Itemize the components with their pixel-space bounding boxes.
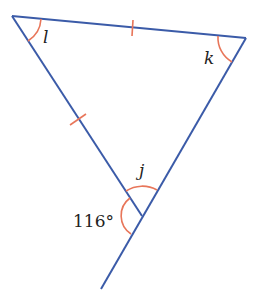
angle-label-l: l (43, 27, 48, 47)
angle-arc-j (126, 186, 157, 191)
angle-arc-l (28, 19, 41, 41)
angle-label-k: k (204, 48, 214, 68)
angle-label-j: j (139, 160, 144, 180)
side-left (12, 16, 142, 216)
tick-mark-top (132, 20, 133, 36)
side-right-extended (101, 38, 246, 289)
tick-mark-left (70, 114, 86, 125)
triangle-figure (0, 0, 258, 303)
angle-arc-116 (121, 198, 131, 234)
angle-arc-k (218, 36, 232, 62)
angle-label-116: 116° (73, 211, 114, 231)
diagram-canvas: l k j 116° (0, 0, 258, 303)
